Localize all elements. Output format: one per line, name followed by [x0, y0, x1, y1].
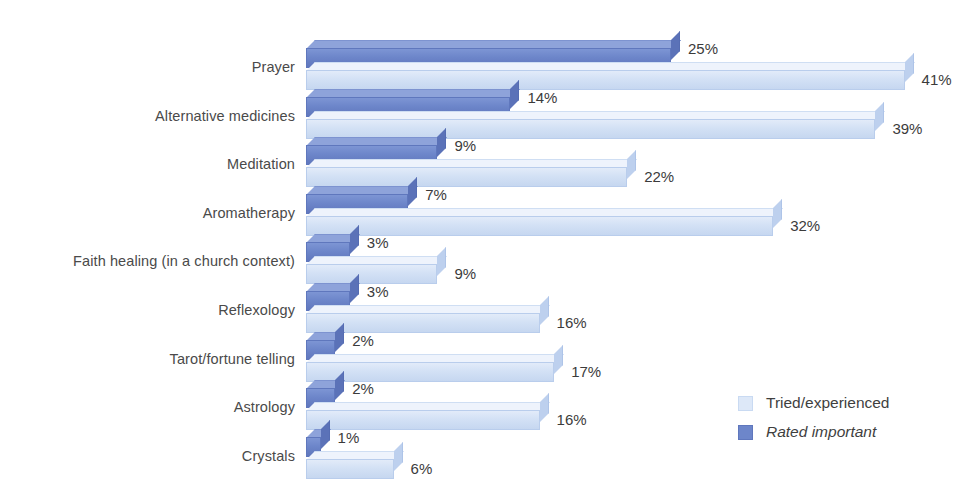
bar-value-label: 16%	[557, 411, 587, 428]
bar-front-face	[306, 264, 437, 284]
bar-front-face	[306, 167, 627, 187]
category-label: Astrology	[0, 399, 295, 415]
bar-tried	[306, 402, 540, 422]
bar-end-cap	[540, 393, 549, 422]
chart-category-group: Aromatherapy7%32%	[0, 186, 977, 236]
bar-front-face	[306, 410, 540, 430]
chart-category-group: Tarot/fortune telling2%17%	[0, 332, 977, 382]
legend-item[interactable]: Tried/experienced	[738, 394, 890, 412]
chart-category-group: Reflexology3%16%	[0, 283, 977, 333]
chart-category-group: Faith healing (in a church context)3%9%	[0, 234, 977, 284]
bar-value-label: 39%	[892, 120, 922, 137]
bar-end-cap	[554, 345, 563, 374]
bar-value-label: 2%	[352, 380, 374, 397]
bar-value-label: 6%	[411, 460, 433, 477]
category-label: Reflexology	[0, 302, 295, 318]
bar-important	[306, 89, 510, 109]
legend-item[interactable]: Rated important	[738, 423, 876, 441]
bar-value-label: 14%	[527, 89, 557, 106]
category-label: Prayer	[0, 59, 295, 75]
bar-important	[306, 332, 335, 352]
bar-tried	[306, 208, 773, 228]
bar-tried	[306, 111, 875, 131]
bar-value-label: 2%	[352, 332, 374, 349]
bar-important	[306, 234, 350, 254]
bar-value-label: 25%	[688, 40, 718, 57]
light-blue-swatch-icon	[738, 396, 753, 411]
category-label: Meditation	[0, 156, 295, 172]
bar-end-cap	[875, 102, 884, 131]
legend-label: Rated important	[766, 423, 876, 441]
chart-category-group: Prayer25%41%	[0, 40, 977, 90]
bar-value-label: 7%	[425, 186, 447, 203]
bar-value-label: 16%	[557, 314, 587, 331]
bar-front-face	[306, 459, 394, 479]
bar-important	[306, 380, 335, 400]
category-label: Aromatherapy	[0, 205, 295, 221]
category-label: Alternative medicines	[0, 108, 295, 124]
bar-important	[306, 40, 671, 60]
bar-value-label: 1%	[338, 429, 360, 446]
bar-end-cap	[905, 53, 914, 82]
bar-end-cap	[627, 150, 636, 179]
chart-container: Prayer25%41%Alternative medicines14%39%M…	[0, 0, 977, 500]
bar-important	[306, 186, 408, 206]
dark-blue-swatch-icon	[738, 425, 753, 440]
bar-end-cap	[540, 296, 549, 325]
bar-important	[306, 429, 321, 449]
bar-important	[306, 283, 350, 303]
bar-value-label: 22%	[644, 168, 674, 185]
bar-value-label: 9%	[454, 265, 476, 282]
bar-tried	[306, 451, 394, 471]
chart-category-group: Meditation9%22%	[0, 137, 977, 187]
bar-tried	[306, 62, 905, 82]
bar-end-cap	[437, 247, 446, 276]
bar-front-face	[306, 70, 905, 90]
chart-category-group: Alternative medicines14%39%	[0, 89, 977, 139]
category-label: Faith healing (in a church context)	[0, 253, 295, 269]
bar-front-face	[306, 216, 773, 236]
bar-front-face	[306, 119, 875, 139]
category-label: Crystals	[0, 448, 295, 464]
bar-end-cap	[671, 31, 680, 60]
bar-value-label: 3%	[367, 234, 389, 251]
bar-value-label: 41%	[922, 71, 952, 88]
bar-value-label: 9%	[454, 137, 476, 154]
bar-end-cap	[773, 199, 782, 228]
bar-end-cap	[394, 442, 403, 471]
category-label: Tarot/fortune telling	[0, 351, 295, 367]
bar-tried	[306, 305, 540, 325]
bar-important	[306, 137, 437, 157]
bar-tried	[306, 256, 437, 276]
bar-value-label: 3%	[367, 283, 389, 300]
bar-value-label: 17%	[571, 363, 601, 380]
bar-tried	[306, 159, 627, 179]
legend-label: Tried/experienced	[766, 394, 890, 412]
bar-value-label: 32%	[790, 217, 820, 234]
